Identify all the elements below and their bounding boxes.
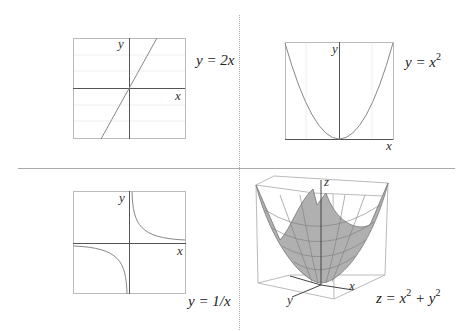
plot-linear [73, 38, 186, 139]
ylabel-paraboloid: y [287, 292, 293, 308]
xlabel-linear: x [175, 88, 181, 104]
plot-hyperbola [73, 191, 186, 294]
equation-paraboloid: z = x2 + y2 [376, 287, 440, 307]
plot-paraboloid [256, 176, 388, 299]
ylabel-linear: y [118, 36, 124, 52]
equation-parabola: y = x2 [405, 51, 441, 71]
equation-hyperbola: y = 1/x [188, 293, 231, 310]
diagram-canvas [0, 0, 473, 331]
xlabel-parabola: x [386, 138, 392, 154]
xlabel-hyperbola: x [177, 243, 183, 259]
zlabel-paraboloid: z [324, 174, 329, 190]
ylabel-hyperbola: y [119, 190, 125, 206]
equation-linear: y = 2x [196, 52, 234, 69]
ylabel-parabola: y [332, 41, 338, 57]
plot-parabola [285, 42, 394, 140]
xlabel-paraboloid: x [349, 278, 355, 294]
